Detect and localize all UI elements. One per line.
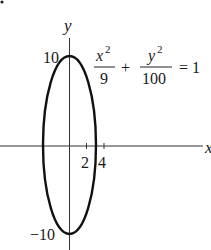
plus-sign: + (121, 59, 130, 76)
term2-denominator: 100 (142, 70, 166, 87)
x-tick-label-2: 2 (81, 154, 89, 171)
term2-exponent: 2 (157, 43, 163, 55)
term1-exponent: 2 (105, 43, 111, 55)
y-tick-label-neg10: −10 (30, 226, 55, 243)
corner-marker-dot (0, 0, 3, 3)
equals-one: = 1 (179, 59, 200, 76)
term1-denominator: 9 (100, 70, 108, 87)
ellipse-diagram: y x 2 4 10 −10 x 2 9 + y 2 100 = 1 (0, 0, 211, 250)
x-axis-label: x (204, 138, 211, 157)
y-tick-label-10: 10 (43, 49, 59, 66)
ellipse-equation: x 2 9 + y 2 100 = 1 (94, 43, 200, 87)
y-axis-label: y (62, 16, 72, 35)
term2-numerator: y (146, 47, 156, 65)
x-tick-label-4: 4 (98, 154, 106, 171)
term1-numerator: x (95, 47, 103, 64)
